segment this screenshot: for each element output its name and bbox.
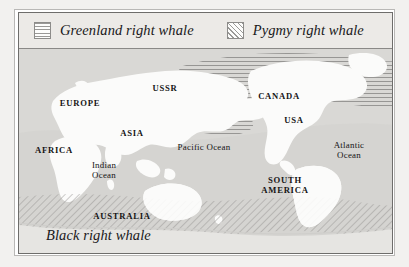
map-label-south-america: SOUTH AMERICA (261, 176, 308, 195)
map-label-pacific-ocean: Pacific Ocean (178, 143, 231, 153)
diagonal-line-hatch-swatch-icon (227, 22, 244, 39)
map-label-indian-ocean-line2: Ocean (92, 171, 116, 181)
map-label-europe: EUROPE (60, 99, 100, 109)
world-map: USSR EUROPE ASIA AFRICA CANADA USA AUSTR… (19, 49, 392, 254)
map-label-africa: AFRICA (35, 146, 73, 156)
figure-inner-frame: Greenland right whale Pygmy right whale (18, 12, 393, 254)
legend-item-greenland-right-whale[interactable]: Greenland right whale (34, 22, 194, 39)
map-label-atlantic-ocean: Atlantic Ocean (334, 141, 365, 161)
map-label-atlantic-ocean-line2: Ocean (334, 151, 365, 161)
map-label-usa: USA (284, 116, 303, 126)
map-label-canada: CANADA (258, 92, 300, 102)
map-label-australia: AUSTRALIA (93, 212, 150, 222)
map-label-asia: ASIA (120, 129, 144, 139)
map-label-indian-ocean: Indian Ocean (92, 161, 116, 181)
map-label-ussr: USSR (153, 84, 178, 94)
map-label-south-america-line2: AMERICA (261, 186, 308, 196)
horizontal-line-hatch-swatch-icon (34, 22, 51, 39)
legend-item-label: Greenland right whale (60, 22, 194, 39)
figure-root: Greenland right whale Pygmy right whale (0, 0, 409, 267)
legend-item-label: Pygmy right whale (253, 22, 364, 39)
legend-item-pygmy-right-whale[interactable]: Pygmy right whale (227, 22, 364, 39)
map-legend: Greenland right whale Pygmy right whale (19, 13, 392, 49)
